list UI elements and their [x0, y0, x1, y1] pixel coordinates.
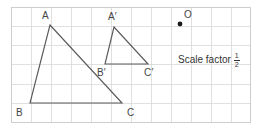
- scale-factor-fraction: 1 2: [234, 52, 240, 68]
- centre-of-enlargement-dot: [178, 22, 183, 27]
- vertex-label-c: C: [127, 108, 134, 118]
- centre-of-enlargement-label: O: [184, 10, 192, 20]
- enlargement-diagram: A B C A′ B′ C′ O Scale factor 1 2: [0, 0, 260, 133]
- scale-factor-text: Scale factor: [178, 55, 231, 65]
- scale-factor-note: Scale factor 1 2: [178, 52, 240, 68]
- vertex-label-a: A: [42, 11, 49, 21]
- vertex-label-c-prime: C′: [144, 68, 154, 78]
- triangle-a-prime-b-prime-c-prime: [105, 27, 148, 64]
- vertex-label-b-prime: B′: [97, 68, 106, 78]
- fraction-denominator: 2: [234, 61, 240, 69]
- vertex-label-b: B: [16, 108, 23, 118]
- vertex-label-a-prime: A′: [108, 12, 117, 22]
- fraction-numerator: 1: [234, 52, 240, 60]
